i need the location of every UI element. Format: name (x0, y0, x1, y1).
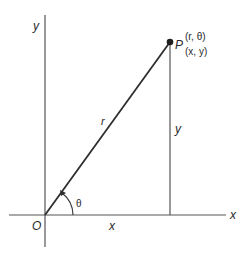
theta-label: θ (76, 198, 82, 209)
y-axis-label: y (32, 19, 40, 33)
vertical-y-label: y (174, 122, 182, 136)
radius-label: r (101, 115, 106, 127)
polar-coordinates-diagram: y x O P (r, θ) (x, y) r y x θ (0, 0, 249, 257)
cartesian-coordinates-label: (x, y) (185, 46, 207, 57)
x-axis-label: x (229, 208, 237, 222)
point-p-dot (167, 39, 174, 46)
theta-arc (62, 193, 73, 215)
origin-label: O (32, 219, 41, 233)
radius-line (45, 42, 170, 215)
polar-coordinates-label: (r, θ) (185, 31, 206, 42)
horizontal-x-label: x (108, 219, 116, 233)
point-p-label: P (175, 38, 183, 52)
